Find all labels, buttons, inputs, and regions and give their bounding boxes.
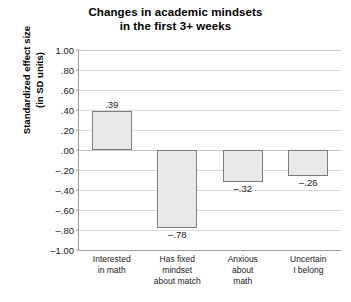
y-tick-mark	[76, 150, 79, 151]
gridline	[79, 50, 341, 51]
gridline	[79, 230, 341, 231]
y-tick-mark	[76, 90, 79, 91]
bar-value-label: .39	[105, 99, 118, 110]
bar-value-label: –.32	[234, 183, 253, 194]
bar[interactable]	[157, 150, 197, 228]
y-tick-mark	[76, 130, 79, 131]
y-axis-title-line-2: (in SD units)	[33, 0, 46, 180]
y-tick-label: .80	[61, 65, 74, 76]
bar-chart-figure: Changes in academic mindsets in the firs…	[0, 0, 351, 302]
plot-area: 1.00.80.60.40.20.00–.20–.40–.60–.80–1.00…	[78, 50, 340, 250]
x-category-label-line: I belong	[269, 265, 347, 276]
gridline	[79, 90, 341, 91]
y-tick-mark	[76, 170, 79, 171]
gridline	[79, 210, 341, 211]
y-tick-label: .40	[61, 105, 74, 116]
y-tick-label: –.60	[56, 205, 75, 216]
gridline	[79, 250, 341, 251]
y-tick-mark	[76, 230, 79, 231]
chart-title-line-2: in the first 3+ weeks	[0, 19, 351, 33]
bar[interactable]	[223, 150, 263, 182]
y-tick-label: –1.00	[50, 245, 74, 256]
bar[interactable]	[288, 150, 328, 176]
gridline	[79, 70, 341, 71]
y-tick-label: 1.00	[56, 45, 75, 56]
y-tick-mark	[76, 110, 79, 111]
y-tick-mark	[76, 50, 79, 51]
x-category-label: UncertainI belong	[269, 254, 347, 276]
y-axis-title-line-1: Standardized effect size	[20, 0, 33, 180]
y-tick-mark	[76, 250, 79, 251]
y-tick-mark	[76, 190, 79, 191]
chart-title-line-1: Changes in academic mindsets	[0, 5, 351, 19]
y-tick-label: –.20	[56, 165, 75, 176]
bar-value-label: –.26	[299, 177, 318, 188]
y-axis-title: Standardized effect size (in SD units)	[20, 0, 52, 180]
x-category-label-line: math	[204, 276, 282, 287]
bar[interactable]	[92, 111, 132, 150]
chart-title: Changes in academic mindsets in the firs…	[0, 5, 351, 33]
x-category-label-line: Uncertain	[269, 254, 347, 265]
y-tick-label: –.80	[56, 225, 75, 236]
y-tick-mark	[76, 210, 79, 211]
gridline	[79, 190, 341, 191]
y-tick-label: .60	[61, 85, 74, 96]
bar-value-label: –.78	[168, 229, 187, 240]
y-tick-label: –.40	[56, 185, 75, 196]
y-tick-label: .00	[61, 145, 74, 156]
y-tick-label: .20	[61, 125, 74, 136]
y-tick-mark	[76, 70, 79, 71]
